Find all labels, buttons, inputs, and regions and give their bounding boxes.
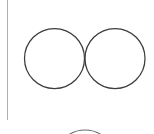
diagram-canvas: Two tangent circles with left vertical r… [0, 0, 154, 134]
canvas-background [0, 0, 154, 134]
diagram-svg [0, 0, 154, 134]
